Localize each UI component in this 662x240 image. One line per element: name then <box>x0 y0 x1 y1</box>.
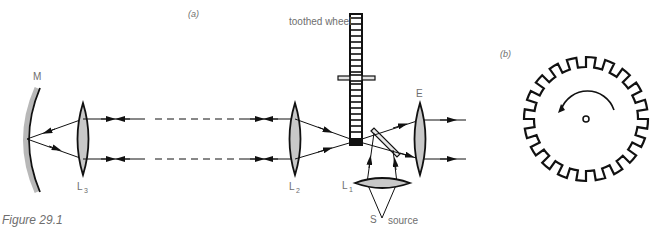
toothed-wheel-side: toothed wheel <box>289 14 375 145</box>
eyepiece-e: E <box>415 88 426 175</box>
svg-text:L: L <box>342 180 348 191</box>
figure-caption: Figure 29.1 <box>2 213 63 227</box>
panel-b-label: (b) <box>500 49 511 59</box>
parallel-beams <box>83 119 295 159</box>
svg-text:L: L <box>289 181 295 192</box>
source-point-label: S <box>370 214 377 225</box>
fizeau-apparatus-diagram: (a) M L 3 L 2 <box>0 0 662 240</box>
svg-text:3: 3 <box>84 187 88 194</box>
rotation-arrow-icon <box>561 91 614 110</box>
panel-a-label: (a) <box>188 9 199 19</box>
axle-hole <box>583 116 589 122</box>
svg-text:2: 2 <box>296 187 300 194</box>
svg-text:1: 1 <box>349 186 353 193</box>
source-label: source <box>388 215 418 226</box>
lens-l3: L 3 <box>77 103 89 194</box>
lens-l1: L 1 <box>342 178 410 193</box>
svg-text:L: L <box>77 181 83 192</box>
toothed-wheel-front <box>524 57 648 181</box>
lens-l2: L 2 <box>289 103 301 194</box>
svg-text:E: E <box>416 88 423 99</box>
rays-mirror-l3 <box>27 119 83 159</box>
rays-wheel-eyepiece <box>356 120 466 159</box>
rays-l2-wheel <box>295 119 356 159</box>
mirror-m: M <box>26 71 42 192</box>
mirror-label: M <box>33 71 41 82</box>
toothed-wheel-label: toothed wheel <box>289 16 351 27</box>
